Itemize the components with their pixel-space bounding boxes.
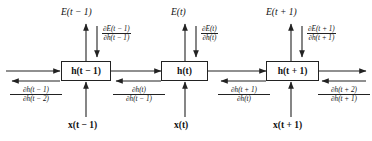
state-gradient-3-numerator: ∂h(t + 1) xyxy=(218,86,270,94)
output-gradient-prev-denominator: ∂h(t − 1) xyxy=(102,33,131,42)
output-error-label-next: E(t + 1) xyxy=(266,8,297,18)
output-gradient-next-denominator: ∂h(t + 1) xyxy=(307,33,336,42)
output-gradient-curr-denominator: ∂h(t) xyxy=(201,33,218,42)
hidden-state-label-next: h(t + 1) xyxy=(278,66,308,76)
output-gradient-prev: ∂E(t − 1) ∂h(t − 1) xyxy=(102,25,131,43)
hidden-state-label-prev: h(t − 1) xyxy=(71,66,101,76)
output-gradient-next-numerator: ∂E(t + 1) xyxy=(307,25,336,33)
input-text-prev: x(t − 1) xyxy=(68,120,97,130)
hidden-state-box-curr[interactable]: h(t) xyxy=(161,61,208,81)
state-gradient-4: ∂h(t + 2) ∂h(t + 1) xyxy=(318,86,370,104)
input-label-curr: x(t) xyxy=(174,121,188,131)
output-error-label-curr: E(t) xyxy=(171,8,186,18)
state-gradient-2-numerator: ∂h(t) xyxy=(113,86,165,94)
input-label-prev: x(t − 1) xyxy=(68,121,97,131)
output-gradient-curr: ∂E(t) ∂h(t) xyxy=(201,25,218,43)
state-gradient-1-denominator: ∂h(t − 2) xyxy=(10,94,62,103)
input-text-next: x(t + 1) xyxy=(273,120,302,130)
input-text-curr: x(t) xyxy=(174,120,188,130)
state-gradient-2: ∂h(t) ∂h(t − 1) xyxy=(113,86,165,104)
state-gradient-1-numerator: ∂h(t − 1) xyxy=(10,86,62,94)
hidden-state-box-prev[interactable]: h(t − 1) xyxy=(61,61,111,81)
hidden-state-box-next[interactable]: h(t + 1) xyxy=(266,61,319,81)
state-gradient-4-denominator: ∂h(t + 1) xyxy=(318,94,370,103)
state-gradient-1: ∂h(t − 1) ∂h(t − 2) xyxy=(10,86,62,104)
hidden-state-label-curr: h(t) xyxy=(177,66,192,76)
output-gradient-curr-numerator: ∂E(t) xyxy=(201,25,218,33)
bptt-diagram: h(t − 1) h(t) h(t + 1) E(t − 1) E(t) E(t… xyxy=(0,0,372,141)
state-gradient-4-numerator: ∂h(t + 2) xyxy=(318,86,370,94)
state-gradient-2-denominator: ∂h(t − 1) xyxy=(113,94,165,103)
output-error-label-prev: E(t − 1) xyxy=(61,8,92,18)
output-gradient-prev-numerator: ∂E(t − 1) xyxy=(102,25,131,33)
state-gradient-3-denominator: ∂h(t) xyxy=(218,94,270,103)
output-gradient-next: ∂E(t + 1) ∂h(t + 1) xyxy=(307,25,336,43)
input-label-next: x(t + 1) xyxy=(273,121,302,131)
state-gradient-3: ∂h(t + 1) ∂h(t) xyxy=(218,86,270,104)
